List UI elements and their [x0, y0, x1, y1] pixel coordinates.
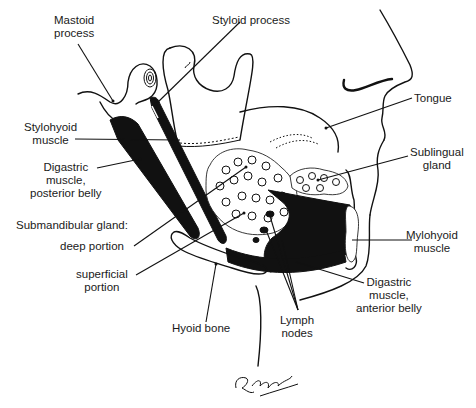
label-deep-portion: deep portion — [60, 240, 124, 253]
label-mastoid-process: Mastoid process — [54, 14, 94, 40]
label-lymph-nodes: Lymph nodes — [280, 314, 314, 340]
label-styloid-process: Styloid process — [212, 14, 290, 27]
anatomy-diagram: Mastoid process Styloid process Tongue S… — [0, 0, 476, 408]
label-mylohyoid-muscle: Mylohyoid muscle — [406, 229, 458, 255]
artist-signature — [236, 376, 298, 396]
label-sublingual-gland: Sublingual gland — [410, 146, 464, 172]
mastoid-process-shape — [78, 64, 157, 122]
mandible-ramus — [163, 46, 253, 147]
label-submandibular-gland: Submandibular gland: — [16, 219, 128, 232]
neck-outline — [256, 286, 261, 366]
anatomy-illustration — [0, 0, 476, 408]
label-digastric-anterior: Digastric muscle, anterior belly — [356, 276, 422, 315]
submandibular-gland-shape — [206, 149, 297, 235]
tongue-shape — [240, 107, 338, 152]
label-stylohyoid-muscle: Stylohyoid muscle — [24, 121, 77, 147]
sublingual-gland-shape — [290, 168, 348, 195]
label-superficial-portion: superficial portion — [76, 268, 128, 294]
label-digastric-posterior: Digastric muscle, posterior belly — [30, 161, 102, 200]
label-hyoid-bone: Hyoid bone — [172, 322, 230, 335]
label-tongue: Tongue — [414, 92, 452, 105]
